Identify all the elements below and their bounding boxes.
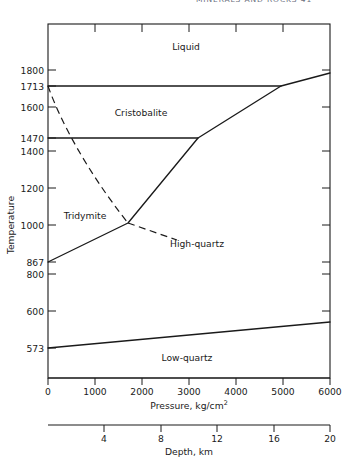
pressure-axis-title-text: Pressure, kg/cm — [150, 400, 223, 411]
x-label-0: 0 — [45, 386, 51, 397]
region-label-cristobalite: Cristobalite — [115, 107, 168, 118]
region-label-liquid: Liquid — [172, 41, 200, 52]
y-label-1400: 1400 — [21, 146, 45, 157]
region-label-high-quartz: High-quartz — [170, 238, 224, 249]
x-label-5000: 5000 — [271, 386, 295, 397]
y-label-1600: 1600 — [21, 102, 45, 113]
x-label-2000: 2000 — [130, 386, 154, 397]
pressure-axis-title: Pressure, kg/cm2 — [150, 399, 227, 411]
y-label-1713: 1713 — [21, 81, 45, 92]
y-label-1000: 1000 — [21, 220, 45, 231]
plot-frame — [48, 24, 330, 378]
y-label-800: 800 — [26, 269, 44, 280]
y-label-1800: 1800 — [21, 65, 45, 76]
curve-low-high-quartz-inversion — [48, 322, 330, 348]
top-axis-ticks — [95, 24, 283, 32]
y-axis-tick-labels: 1800 1713 1600 1470 1400 1200 1000 867 8… — [21, 65, 45, 354]
x-label-4000: 4000 — [224, 386, 248, 397]
depth-axis-ticks — [104, 425, 330, 432]
x-label-3000: 3000 — [177, 386, 201, 397]
x-label-6000: 6000 — [318, 386, 342, 397]
phase-diagram-figure: MINERALS AND ROCKS 41 1800 1713 1600 147… — [0, 0, 349, 461]
y-label-600: 600 — [26, 306, 44, 317]
pressure-axis-title-superscript: 2 — [224, 399, 228, 407]
depth-axis-title: Depth, km — [165, 446, 213, 457]
y-axis-title: Temperature — [5, 196, 16, 256]
y-label-867: 867 — [26, 257, 44, 268]
region-label-tridymite: Tridymite — [63, 210, 107, 221]
y-label-1200: 1200 — [21, 183, 45, 194]
phase-diagram-svg: 1800 1713 1600 1470 1400 1200 1000 867 8… — [0, 0, 349, 461]
depth-label-20: 20 — [324, 433, 336, 444]
pressure-axis-tick-labels: 0 1000 2000 3000 4000 5000 6000 — [45, 386, 342, 397]
x-label-1000: 1000 — [83, 386, 107, 397]
depth-label-16: 16 — [268, 433, 280, 444]
curve-cristobalite-liquid — [48, 73, 330, 86]
depth-label-4: 4 — [101, 433, 107, 444]
depth-axis-tick-labels: 4 8 12 16 20 — [101, 433, 336, 444]
region-labels: Liquid Cristobalite Tridymite High-quart… — [63, 41, 224, 363]
y-axis-ticks — [48, 70, 56, 348]
running-head: MINERALS AND ROCKS 41 — [196, 0, 348, 4]
pressure-axis-ticks — [48, 378, 330, 385]
y-label-573: 573 — [26, 343, 44, 354]
region-label-low-quartz: Low-quartz — [162, 352, 213, 363]
right-axis-ticks — [322, 70, 330, 311]
y-label-1470: 1470 — [21, 133, 45, 144]
depth-label-8: 8 — [158, 433, 164, 444]
depth-label-12: 12 — [211, 433, 223, 444]
